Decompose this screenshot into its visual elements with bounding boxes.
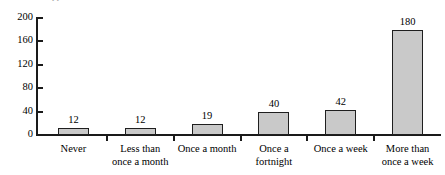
bar xyxy=(58,128,89,135)
y-axis-tick-label-text: 120 xyxy=(3,59,33,69)
plot-area: 04080120160200 12Never12Less than once a… xyxy=(0,0,445,175)
x-axis-tick xyxy=(373,136,375,141)
x-axis-category-label: Once a fortnight xyxy=(238,142,310,168)
bar-chart: clipped text above chart 04080120160200 … xyxy=(0,0,445,175)
y-axis-tick xyxy=(38,87,43,89)
bar xyxy=(125,128,156,135)
y-axis-tick xyxy=(38,17,43,19)
bar-value-label: 12 xyxy=(43,114,103,125)
x-axis-category-label: Never xyxy=(37,142,109,155)
x-axis-tick xyxy=(240,136,242,141)
x-axis-line xyxy=(36,134,441,136)
x-axis-category-label: Once a month xyxy=(171,142,243,155)
y-axis-tick-label-text: 160 xyxy=(3,35,33,45)
y-axis-tick xyxy=(38,111,43,113)
x-axis-category-label: Once a week xyxy=(305,142,377,155)
x-axis-tick xyxy=(173,136,175,141)
y-axis-tick-label-text: 80 xyxy=(3,82,33,92)
bar xyxy=(392,30,423,135)
bar xyxy=(325,110,356,135)
bar-value-label: 40 xyxy=(244,98,304,109)
y-axis-tick-label: 80 xyxy=(0,82,33,92)
y-axis-tick xyxy=(38,134,43,136)
y-axis-tick-label: 200 xyxy=(0,12,33,22)
y-axis-tick-label: 120 xyxy=(0,59,33,69)
bar xyxy=(258,112,289,135)
x-axis-tick xyxy=(106,136,108,141)
bar-value-label: 12 xyxy=(110,114,170,125)
bar-value-label: 180 xyxy=(378,16,438,27)
y-axis-tick-label: 160 xyxy=(0,35,33,45)
bar-value-label: 19 xyxy=(177,110,237,121)
bar-value-label: 42 xyxy=(311,96,371,107)
x-axis-tick xyxy=(306,136,308,141)
y-axis-line xyxy=(36,17,38,136)
y-axis-tick-label-text: 0 xyxy=(3,129,33,139)
bar xyxy=(192,124,223,135)
x-axis-category-label: Less than once a month xyxy=(104,142,176,168)
y-axis-tick-label: 40 xyxy=(0,106,33,116)
y-axis-tick-label-text: 40 xyxy=(3,106,33,116)
y-axis-tick-label-text: 200 xyxy=(3,12,33,22)
x-axis-category-label: More than once a week xyxy=(372,142,444,168)
y-axis-tick xyxy=(38,40,43,42)
y-axis-tick xyxy=(38,64,43,66)
y-axis-tick-label: 0 xyxy=(0,129,33,139)
